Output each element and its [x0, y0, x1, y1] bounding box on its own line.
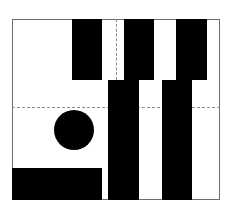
vertical-guide-line: [116, 19, 117, 80]
top-bar-2: [124, 19, 154, 80]
bottom-left-block: [12, 168, 102, 200]
top-bar-3: [176, 19, 207, 80]
lower-bar-1: [108, 80, 139, 200]
lower-bar-2: [162, 80, 192, 200]
figure-canvas: [0, 0, 228, 211]
black-circle: [54, 110, 94, 150]
top-bar-1: [72, 19, 102, 80]
